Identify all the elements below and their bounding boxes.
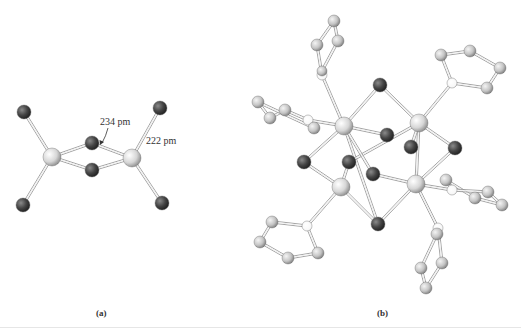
carbon-atom	[282, 252, 294, 264]
carbon-atom	[494, 62, 506, 74]
metal-atom	[410, 114, 428, 132]
panel-a-caption: (a)	[96, 308, 107, 318]
halide-atom	[366, 167, 380, 181]
carbon-atom	[431, 228, 443, 240]
carbon-atom	[469, 192, 481, 204]
panel-b-tetramer	[252, 15, 508, 294]
carbon-atom	[264, 112, 276, 124]
carbon-atom	[420, 282, 432, 294]
halide-atom	[404, 140, 418, 154]
carbon-atom	[496, 199, 508, 211]
bond-pointer-arrow	[102, 128, 108, 143]
halide-atom	[342, 155, 356, 169]
carbon-atom	[436, 257, 448, 269]
panel-a-atoms	[16, 101, 169, 212]
carbon-atom	[252, 96, 264, 108]
halide-atom	[153, 101, 167, 115]
bridge-bond-length-label: 234 pm	[100, 116, 130, 127]
halide-atom	[380, 128, 394, 142]
carbon-atom	[328, 15, 340, 27]
carbon-atom	[311, 39, 323, 51]
carbon-atom	[308, 122, 320, 134]
carbon-atom	[415, 262, 427, 274]
halide-atom	[297, 155, 311, 169]
halide-atom	[371, 217, 385, 231]
halide-atom	[85, 163, 99, 177]
panel-b-caption: (b)	[377, 308, 388, 318]
carbon-atom	[440, 174, 452, 186]
halide-atom	[155, 196, 169, 210]
donor-atom	[302, 221, 312, 231]
metal-atom	[335, 117, 353, 135]
panel-b-atoms	[252, 15, 508, 294]
carbon-atom	[482, 186, 494, 198]
panel-b-bonds	[257, 20, 503, 288]
carbon-atom	[332, 35, 344, 47]
halide-atom	[17, 105, 31, 119]
halide-atom	[448, 141, 462, 155]
metal-atom	[407, 175, 425, 193]
carbon-atom	[464, 45, 476, 57]
carbon-atom	[317, 66, 327, 76]
carbon-atom	[279, 104, 291, 116]
carbon-atom	[266, 216, 278, 228]
page-edge-divider	[0, 327, 521, 328]
carbon-atom	[481, 82, 493, 94]
terminal-bond-length-label: 222 pm	[146, 135, 176, 146]
halide-atom	[85, 136, 99, 150]
carbon-atom	[254, 236, 266, 248]
metal-atom	[123, 149, 141, 167]
halide-atom	[16, 198, 30, 212]
molecular-structure-figure	[0, 0, 521, 329]
halide-atom	[373, 78, 387, 92]
metal-atom	[332, 178, 350, 196]
carbon-atom	[435, 49, 447, 61]
donor-atom	[447, 78, 457, 88]
donor-atom	[447, 185, 457, 195]
carbon-atom	[312, 247, 324, 259]
panel-a-dimer	[16, 101, 169, 212]
metal-atom	[43, 148, 61, 166]
